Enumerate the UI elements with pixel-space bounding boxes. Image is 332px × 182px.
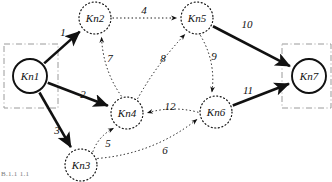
edge-kn1-to-kn4: [48, 83, 108, 106]
edge-weight-label-e10: 10: [242, 18, 254, 30]
node-kn5[interactable]: Kn5: [181, 2, 213, 34]
edge-weight-label-e5: 5: [105, 137, 111, 149]
node-kn4[interactable]: Kn4: [111, 97, 143, 129]
edge-weight-label-e2: 2: [80, 88, 86, 100]
node-label: Kn2: [85, 12, 105, 24]
graph-diagram: Kn1Kn2Kn3Kn4Kn5Kn6Kn7 123456789101112: [0, 0, 332, 182]
node-label: Kn1: [20, 70, 39, 82]
figure-canvas: Kn1Kn2Kn3Kn4Kn5Kn6Kn7 123456789101112 B.…: [0, 0, 332, 182]
node-kn6[interactable]: Kn6: [200, 96, 232, 128]
node-label: Kn4: [117, 107, 137, 119]
edge-kn5-to-kn7: [213, 26, 290, 66]
node-kn1[interactable]: Kn1: [13, 59, 47, 93]
node-label: Kn7: [299, 70, 319, 82]
edge-kn6-to-kn7: [233, 84, 289, 106]
edge-weight-label-e9: 9: [211, 50, 217, 62]
edge-weight-label-e1: 1: [60, 26, 66, 38]
edge-weight-label-e12: 12: [165, 100, 177, 112]
node-kn2[interactable]: Kn2: [79, 2, 111, 34]
node-label: Kn3: [71, 159, 91, 171]
node-kn3[interactable]: Kn3: [65, 149, 97, 181]
edge-weight-label-e8: 8: [160, 52, 166, 64]
edge-kn4-to-kn5: [138, 35, 185, 99]
edge-weight-label-e6: 6: [162, 144, 168, 156]
node-kn7[interactable]: Kn7: [292, 59, 326, 93]
edge-kn3-to-kn6: [98, 119, 197, 158]
node-label: Kn6: [206, 106, 226, 118]
corner-caption-text: B.1.1 1.1: [1, 170, 47, 180]
edge-kn4-to-kn2: [102, 37, 122, 96]
edge-kn1-to-kn3: [39, 92, 70, 147]
node-label: Kn5: [187, 12, 207, 24]
edge-weight-label-e4: 4: [141, 4, 147, 16]
edge-weight-label-e11: 11: [243, 84, 253, 96]
edge-weight-label-e3: 3: [53, 124, 60, 136]
edge-kn5-to-kn6: [201, 36, 213, 92]
edge-weight-label-e7: 7: [107, 52, 113, 64]
